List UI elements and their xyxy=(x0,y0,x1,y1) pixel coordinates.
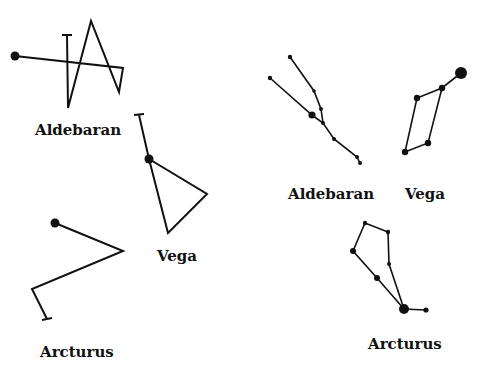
right-aldebaran-figure xyxy=(268,55,362,165)
left-vega-label: Vega xyxy=(156,247,197,265)
right-arcturus-label: Arcturus xyxy=(367,335,442,353)
right-arcturus-figure xyxy=(350,221,429,314)
right-vega-label: Vega xyxy=(404,185,445,203)
right-vega-figure xyxy=(402,67,467,155)
left-vega-star xyxy=(145,155,154,164)
left-aldebaran-figure xyxy=(15,21,123,108)
left-arcturus-figure xyxy=(32,223,123,320)
left-arcturus-label: Arcturus xyxy=(39,343,114,361)
left-aldebaran-label: Aldebaran xyxy=(34,121,121,139)
left-vega-figure xyxy=(134,114,207,233)
constellation-diagram: Aldebaran Vega Arcturus Aldebaran Vega A… xyxy=(0,0,486,370)
right-aldebaran-label: Aldebaran xyxy=(287,185,374,203)
left-aldebaran-star xyxy=(11,52,20,61)
left-arcturus-star xyxy=(51,219,60,228)
